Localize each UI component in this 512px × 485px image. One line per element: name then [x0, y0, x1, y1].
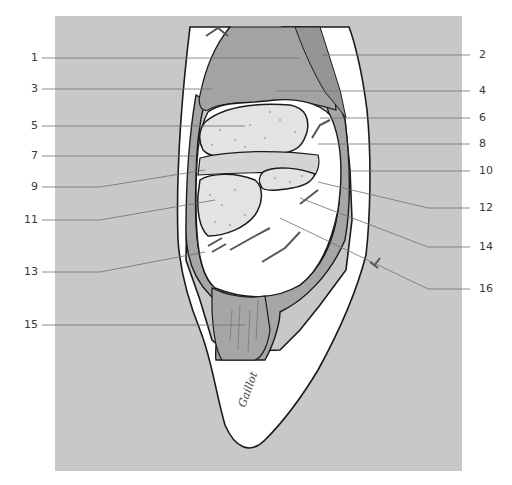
- label-2: 2: [479, 49, 505, 61]
- label-3: 3: [12, 83, 38, 95]
- label-11: 11: [12, 214, 38, 226]
- label-4: 4: [479, 85, 505, 97]
- label-12: 12: [479, 202, 505, 214]
- label-1: 1: [12, 52, 38, 64]
- label-6: 6: [479, 112, 505, 124]
- label-15: 15: [12, 319, 38, 331]
- label-5: 5: [12, 120, 38, 132]
- anatomy-figure: Gaillot 1 3 5 7 9 11 13 15 2: [0, 0, 512, 485]
- label-8: 8: [479, 138, 505, 150]
- label-9: 9: [12, 181, 38, 193]
- label-14: 14: [479, 241, 505, 253]
- label-10: 10: [479, 165, 505, 177]
- lower-muscle-15: [212, 288, 270, 360]
- label-13: 13: [12, 266, 38, 278]
- label-7: 7: [12, 150, 38, 162]
- label-16: 16: [479, 283, 505, 295]
